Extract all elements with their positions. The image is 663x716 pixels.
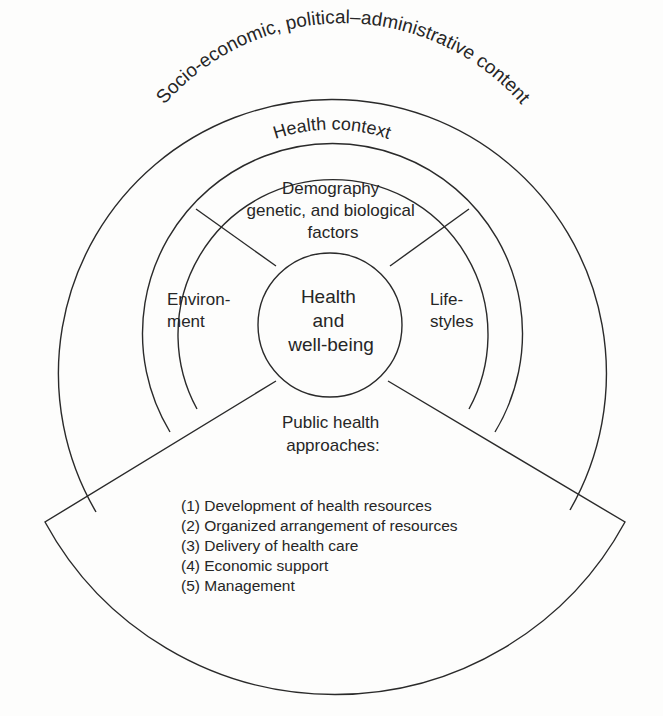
- public-health-heading: Public health approaches:: [282, 413, 384, 455]
- context-ring-label: Health context: [271, 114, 394, 143]
- segment-environment: Environ- ment: [167, 290, 235, 331]
- health-system-diagram: Socio-economic, political–administrative…: [0, 0, 663, 716]
- list-item: (4) Economic support: [181, 557, 329, 574]
- outer-ring-label: Socio-economic, political–administrative…: [152, 6, 535, 108]
- list-item: (3) Delivery of health care: [181, 537, 358, 554]
- list-item: (2) Organized arrangement of resources: [181, 517, 458, 534]
- public-health-list: (1) Development of health resources (2) …: [181, 497, 462, 594]
- core-label: Health and well-being: [287, 286, 374, 355]
- list-item: (5) Management: [181, 577, 295, 594]
- segment-lifestyles: Life- styles: [430, 290, 473, 331]
- segment-demography: Demography genetic, and biological facto…: [247, 179, 420, 242]
- list-item: (1) Development of health resources: [181, 497, 432, 514]
